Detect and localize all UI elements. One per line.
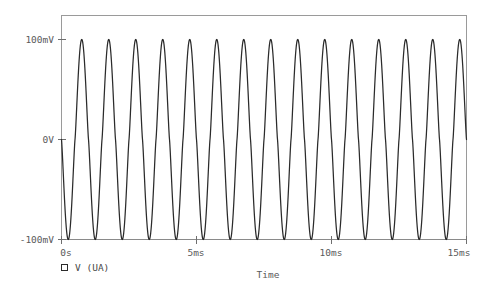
y-tick-label-neg100mv: -100mV	[20, 234, 55, 245]
open-square-marker-icon	[62, 265, 68, 271]
legend-entry-label: V (UA)	[75, 262, 109, 273]
transient-plot-panel: 100mV 0V -100mV 0s 5ms 10ms 15ms V (UA) …	[0, 0, 481, 293]
plot-canvas[interactable]: 100mV 0V -100mV 0s 5ms 10ms 15ms V (UA) …	[0, 0, 481, 293]
plot-frame	[62, 16, 467, 240]
x-tick-label-0s: 0s	[60, 247, 71, 258]
y-tick-label-0v: 0V	[43, 134, 55, 145]
waveform-trace-v-ua	[62, 40, 467, 240]
x-axis-title: Time	[257, 269, 280, 280]
x-tick-label-10ms: 10ms	[320, 247, 343, 258]
y-tick-label-100mv: 100mV	[25, 34, 54, 45]
x-tick-label-15ms: 15ms	[448, 247, 471, 258]
x-tick-label-5ms: 5ms	[187, 247, 204, 258]
legend[interactable]: V (UA)	[62, 262, 110, 273]
